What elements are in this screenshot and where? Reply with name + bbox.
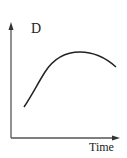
- d-curve: [24, 52, 116, 107]
- graph-canvas: [0, 0, 127, 158]
- y-axis-label: D: [31, 21, 41, 37]
- y-axis-arrow-icon: [9, 22, 14, 30]
- x-axis-label: Time: [89, 140, 114, 155]
